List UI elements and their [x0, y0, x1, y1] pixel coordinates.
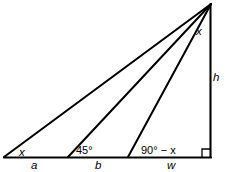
- triangle-figure-svg: [0, 0, 227, 172]
- angle-label-right: 90° − x: [141, 145, 176, 156]
- segment-label-b: b: [95, 160, 101, 172]
- segment-label-a: a: [31, 160, 37, 172]
- hypotenuse-line: [4, 4, 211, 157]
- right-angle-icon: [202, 149, 210, 157]
- angle-label-apex: x: [196, 26, 202, 38]
- geometry-diagram: x 45° 90° − x x h a b w: [0, 0, 227, 172]
- angle-label-left: x: [19, 147, 25, 159]
- segment-label-w: w: [167, 160, 175, 172]
- angle-label-middle: 45°: [76, 145, 93, 156]
- side-label-height: h: [213, 72, 219, 84]
